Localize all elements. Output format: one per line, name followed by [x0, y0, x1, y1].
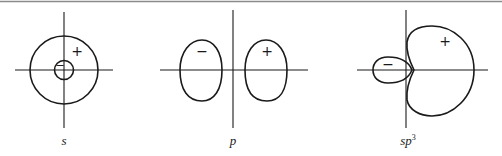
- p-positive-sign: +: [261, 43, 273, 59]
- sp3-positive-sign: +: [439, 33, 451, 49]
- p-negative-sign: −: [196, 43, 208, 59]
- p-label: p: [229, 133, 237, 148]
- panel-p: − + p: [160, 10, 308, 148]
- panel-sp3: − + sp3: [357, 10, 488, 148]
- s-label: s: [61, 133, 66, 148]
- sp3-label-superscript: 3: [412, 133, 416, 142]
- s-inner-sign: −: [55, 59, 64, 72]
- panel-s: + − s: [15, 12, 113, 148]
- s-outer-sign: +: [71, 43, 83, 59]
- sp3-label: sp3: [400, 133, 416, 148]
- orbital-diagram: + − s − + p − + sp3: [0, 0, 502, 156]
- sp3-label-base: sp: [400, 133, 412, 148]
- sp3-negative-sign: −: [382, 56, 394, 72]
